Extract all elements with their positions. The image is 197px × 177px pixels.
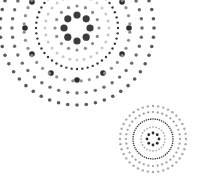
dot <box>144 130 146 132</box>
dot <box>133 77 137 81</box>
dot <box>3 0 7 3</box>
dot <box>114 11 116 13</box>
dot <box>0 35 2 39</box>
dot <box>101 46 104 49</box>
dot <box>166 152 168 154</box>
dot <box>111 94 115 98</box>
dot <box>89 0 92 1</box>
dot <box>156 142 159 145</box>
dot <box>173 155 175 157</box>
dot <box>96 62 98 64</box>
dot <box>143 113 145 115</box>
dot <box>144 147 146 149</box>
dot <box>96 35 99 38</box>
dot <box>38 11 40 13</box>
dot <box>115 16 117 18</box>
dot <box>184 133 186 135</box>
dot <box>119 138 121 140</box>
dot <box>129 151 131 153</box>
dot <box>157 164 159 166</box>
dot <box>162 132 164 134</box>
dot <box>0 26 2 30</box>
dot <box>141 135 143 137</box>
dot <box>40 6 42 8</box>
dot <box>36 16 38 18</box>
dot <box>181 123 183 125</box>
dot <box>146 128 148 130</box>
dot <box>154 118 156 120</box>
dot <box>11 36 14 39</box>
dot <box>157 158 159 160</box>
dot <box>120 128 122 130</box>
dot <box>150 118 152 120</box>
dot <box>75 91 78 94</box>
dot <box>143 62 147 66</box>
dot <box>84 6 87 9</box>
dot <box>146 157 148 159</box>
dot <box>67 6 70 9</box>
dot <box>48 85 51 88</box>
dot <box>75 48 78 51</box>
dot <box>165 115 167 117</box>
dot <box>35 32 37 34</box>
dot <box>167 167 169 169</box>
dot <box>138 124 140 126</box>
dot <box>107 34 110 37</box>
dot <box>132 111 134 113</box>
dot <box>134 0 137 3</box>
dot <box>161 156 163 158</box>
dot <box>120 148 122 150</box>
dot <box>35 27 37 29</box>
dot <box>64 34 71 41</box>
dot <box>178 133 180 135</box>
dot <box>41 67 44 70</box>
dot <box>140 17 143 20</box>
dot <box>175 161 177 163</box>
dot <box>168 126 170 128</box>
dot <box>142 169 144 171</box>
dot <box>157 119 159 121</box>
dot <box>60 11 63 14</box>
dot-mandala-graphic <box>0 0 197 177</box>
dot <box>158 148 160 150</box>
dot <box>127 39 130 42</box>
dot <box>64 15 71 22</box>
dot <box>104 13 107 16</box>
dot <box>127 129 129 131</box>
dot <box>68 58 71 61</box>
dot <box>16 53 19 56</box>
dot <box>0 17 2 21</box>
dot <box>132 165 134 167</box>
dot <box>126 25 132 31</box>
dot <box>166 124 168 126</box>
dot <box>168 151 170 153</box>
dot <box>40 81 43 84</box>
dot <box>131 121 133 123</box>
dot <box>172 138 174 140</box>
dot <box>138 161 140 163</box>
dot <box>132 136 134 138</box>
dot <box>36 37 38 39</box>
dot <box>0 45 4 49</box>
dot <box>162 144 164 146</box>
dot <box>147 0 151 3</box>
dot <box>135 128 137 130</box>
dot <box>122 153 124 155</box>
dot <box>152 118 154 120</box>
dot <box>146 119 148 121</box>
dot <box>161 113 163 115</box>
dot <box>66 91 69 94</box>
dot <box>133 134 135 136</box>
dot <box>179 157 181 159</box>
dot <box>129 124 131 126</box>
dot <box>171 132 173 134</box>
dot <box>86 66 88 68</box>
dot <box>165 123 167 125</box>
dot <box>144 156 146 158</box>
dot <box>94 89 97 92</box>
dot <box>150 158 152 160</box>
dot <box>125 138 127 140</box>
dot <box>57 101 61 105</box>
dot <box>163 121 165 123</box>
dot <box>21 61 24 64</box>
